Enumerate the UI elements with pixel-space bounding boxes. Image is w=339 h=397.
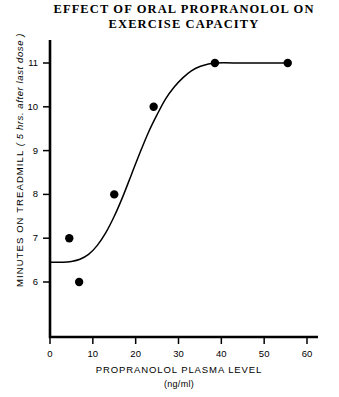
x-tick-label: 20 — [124, 349, 148, 359]
data-point — [211, 59, 219, 67]
y-tick-label: 9 — [16, 146, 38, 156]
x-tick-label: 60 — [295, 349, 319, 359]
y-tick-label: 7 — [16, 233, 38, 243]
x-tick-label: 0 — [38, 349, 62, 359]
x-tick-label: 40 — [209, 349, 233, 359]
chart-figure: EFFECT OF ORAL PROPRANOLOL ON EXERCISE C… — [0, 0, 339, 397]
data-point — [75, 278, 83, 286]
data-point — [110, 190, 118, 198]
x-tick-label: 50 — [252, 349, 276, 359]
x-axis-title: PROPRANOLOL PLASMA LEVEL — [34, 364, 324, 375]
data-points — [65, 59, 292, 286]
y-tick-label: 8 — [16, 189, 38, 199]
x-axis-units: (ng/ml) — [34, 379, 324, 389]
fit-curve — [50, 63, 288, 263]
y-tick-label: 6 — [16, 277, 38, 287]
y-tick-label: 10 — [16, 102, 38, 112]
y-tick-label: 11 — [16, 58, 38, 68]
data-point — [65, 234, 73, 242]
data-point — [284, 59, 292, 67]
plot-area — [0, 0, 339, 397]
x-tick-label: 30 — [167, 349, 191, 359]
x-tick-label: 10 — [81, 349, 105, 359]
axis-lines — [50, 40, 318, 337]
data-point — [149, 103, 157, 111]
